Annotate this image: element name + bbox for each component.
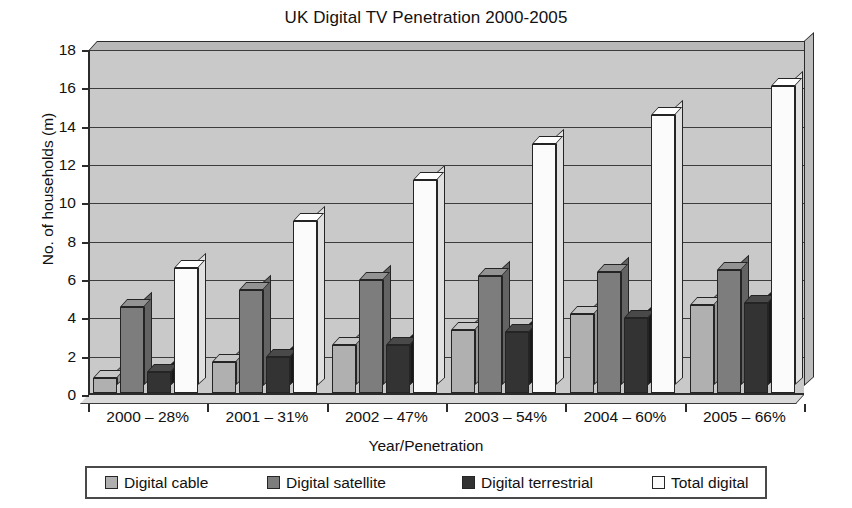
bar-group xyxy=(329,50,448,393)
x-axis-title: Year/Penetration xyxy=(0,437,852,455)
chart-title: UK Digital TV Penetration 2000-2005 xyxy=(0,8,852,28)
bar-face xyxy=(239,290,263,394)
bar-face xyxy=(359,280,383,393)
y-tick-mark xyxy=(82,395,89,397)
bar[interactable] xyxy=(413,180,437,393)
bar-face xyxy=(532,144,556,393)
bar-face xyxy=(505,332,529,393)
bar-side-face xyxy=(556,129,564,385)
bar-group xyxy=(209,50,328,393)
legend-label: Total digital xyxy=(671,474,749,492)
bar-group xyxy=(448,50,567,393)
bar-face xyxy=(212,362,236,393)
bar-face xyxy=(386,345,410,393)
bar[interactable] xyxy=(505,332,529,393)
legend-swatch-icon xyxy=(105,476,118,489)
y-tick-mark xyxy=(82,165,89,167)
legend-swatch-icon xyxy=(652,476,665,489)
bar[interactable] xyxy=(174,268,198,393)
legend-label: Digital terrestrial xyxy=(481,474,593,492)
bar-side-face xyxy=(437,165,445,385)
bar-face xyxy=(478,276,502,393)
bar[interactable] xyxy=(717,270,741,393)
y-tick-label: 8 xyxy=(44,233,76,251)
legend-item[interactable]: Digital satellite xyxy=(267,474,386,492)
bar[interactable] xyxy=(293,221,317,394)
bar[interactable] xyxy=(93,378,117,393)
legend-item[interactable]: Total digital xyxy=(652,474,749,492)
x-tick-label: 2002 – 47% xyxy=(327,408,446,426)
bar[interactable] xyxy=(359,280,383,393)
plot-area xyxy=(88,50,804,395)
bar[interactable] xyxy=(744,303,768,393)
legend-swatch-icon xyxy=(267,476,280,489)
y-tick-label: 10 xyxy=(44,194,76,212)
chart-legend: Digital cableDigital satelliteDigital te… xyxy=(85,466,767,499)
y-tick-mark xyxy=(82,242,89,244)
bar-face xyxy=(413,180,437,393)
bar[interactable] xyxy=(690,305,714,393)
bar[interactable] xyxy=(624,318,648,393)
bar[interactable] xyxy=(771,86,795,393)
x-tick-label: 2003 – 54% xyxy=(446,408,565,426)
bar-face xyxy=(120,307,144,393)
bar-side-face xyxy=(675,100,683,385)
bar[interactable] xyxy=(266,357,290,393)
y-tick-label: 12 xyxy=(44,156,76,174)
legend-item[interactable]: Digital terrestrial xyxy=(462,474,593,492)
x-tick-label: 2005 – 66% xyxy=(685,408,804,426)
y-tick-label: 18 xyxy=(44,41,76,59)
bar-face xyxy=(570,314,594,393)
bar[interactable] xyxy=(120,307,144,393)
bar-group xyxy=(90,50,209,393)
bar-face xyxy=(690,305,714,393)
bar-side-face xyxy=(795,71,803,385)
x-tick-label: 2000 – 28% xyxy=(88,408,207,426)
y-tick-label: 14 xyxy=(44,118,76,136)
bar[interactable] xyxy=(451,330,475,393)
y-tick-label: 6 xyxy=(44,271,76,289)
bar[interactable] xyxy=(386,345,410,393)
bar-face xyxy=(744,303,768,393)
y-tick-mark xyxy=(82,280,89,282)
x-tick-mark xyxy=(804,404,806,412)
x-tick-label: 2001 – 31% xyxy=(207,408,326,426)
bar-face xyxy=(93,378,117,393)
bar[interactable] xyxy=(597,272,621,393)
bar-side-face xyxy=(317,205,325,385)
plot-floor xyxy=(80,395,804,404)
bar-group xyxy=(567,50,686,393)
bar-face xyxy=(624,318,648,393)
y-tick-mark xyxy=(82,203,89,205)
bar[interactable] xyxy=(478,276,502,393)
bar-face xyxy=(771,86,795,393)
bar-face xyxy=(451,330,475,393)
bar-face xyxy=(597,272,621,393)
bar[interactable] xyxy=(570,314,594,393)
bar[interactable] xyxy=(212,362,236,393)
bar-group xyxy=(687,50,806,393)
x-tick-label: 2004 – 60% xyxy=(565,408,684,426)
legend-item[interactable]: Digital cable xyxy=(105,474,208,492)
bar-face xyxy=(332,345,356,393)
bar-face xyxy=(174,268,198,393)
bar-face xyxy=(266,357,290,393)
y-tick-mark xyxy=(82,127,89,129)
bar-side-face xyxy=(198,253,206,385)
bar[interactable] xyxy=(147,372,171,393)
y-tick-mark xyxy=(82,50,89,52)
y-tick-mark xyxy=(82,88,89,90)
y-tick-label: 16 xyxy=(44,79,76,97)
bar-face xyxy=(717,270,741,393)
legend-swatch-icon xyxy=(462,476,475,489)
bar[interactable] xyxy=(651,115,675,393)
bar[interactable] xyxy=(532,144,556,393)
y-tick-label: 4 xyxy=(44,309,76,327)
bar[interactable] xyxy=(332,345,356,393)
y-tick-mark xyxy=(82,357,89,359)
legend-label: Digital cable xyxy=(124,474,208,492)
y-tick-label: 0 xyxy=(44,386,76,404)
bar[interactable] xyxy=(239,290,263,394)
bar-face xyxy=(293,221,317,394)
legend-label: Digital satellite xyxy=(286,474,386,492)
